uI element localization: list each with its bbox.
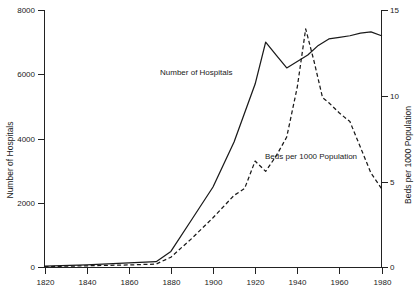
x-tick-label-1920: 1920 [247, 278, 265, 287]
x-tick-label-1840: 1840 [79, 278, 97, 287]
left-tick-label-2000: 2000 [17, 199, 35, 208]
left-tick-label-4000: 4000 [17, 135, 35, 144]
right-axis-ticks [382, 11, 389, 268]
right-tick-label-0: 0 [390, 263, 395, 272]
left-axis: 8000 6000 4000 2000 0 Number of Hospital… [5, 6, 45, 272]
right-axis-title: Beds per 1000 Population [403, 106, 413, 204]
annotation-beds-per-1000-population: Beds per 1000 Population [265, 152, 357, 161]
x-tick-label-1820: 1820 [37, 278, 55, 287]
x-axis-tick-labels: 182018401860188019001920194019601980 [37, 278, 392, 287]
left-axis-tick-labels: 8000 6000 4000 2000 0 [17, 6, 35, 272]
x-tick-label-1900: 1900 [205, 278, 223, 287]
x-tick-label-1960: 1960 [331, 278, 349, 287]
right-tick-label-5: 5 [390, 178, 395, 187]
left-tick-label-0: 0 [31, 263, 36, 272]
chart-container: 8000 6000 4000 2000 0 Number of Hospital… [0, 0, 418, 293]
data-series-group [45, 29, 382, 267]
annotation-number-of-hospitals: Number of Hospitals [160, 68, 232, 77]
x-tick-label-1980: 1980 [374, 278, 392, 287]
right-axis-tick-labels: 15 10 5 0 [390, 6, 399, 272]
left-axis-title: Number of Hospitals [5, 121, 15, 198]
right-tick-label-15: 15 [390, 6, 399, 15]
right-axis: 15 10 5 0 Beds per 1000 Population [382, 6, 414, 272]
left-tick-label-8000: 8000 [17, 6, 35, 15]
x-tick-label-1940: 1940 [289, 278, 307, 287]
hospital-beds-line-chart: 8000 6000 4000 2000 0 Number of Hospital… [0, 0, 418, 293]
x-tick-label-1860: 1860 [121, 278, 139, 287]
right-tick-label-10: 10 [390, 92, 399, 101]
x-tick-label-1880: 1880 [163, 278, 181, 287]
left-axis-ticks [38, 11, 45, 268]
series-line-beds-per-1000-population [45, 29, 382, 267]
x-axis-ticks [46, 268, 383, 274]
left-tick-label-6000: 6000 [17, 70, 35, 79]
series-annotations: Number of Hospitals Beds per 1000 Popula… [160, 68, 357, 161]
x-axis: 182018401860188019001920194019601980 [37, 268, 392, 287]
